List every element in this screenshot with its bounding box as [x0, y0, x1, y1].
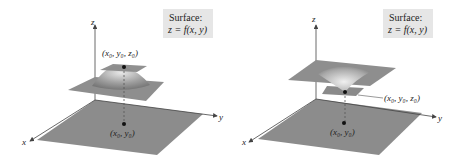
- min-point: [343, 90, 347, 94]
- z-label: z: [90, 17, 95, 27]
- max-point: [122, 65, 126, 69]
- point-3d-label: (x₀, y₀, z₀): [384, 93, 420, 103]
- right-diagram: Surface: z = f(x, y) z y x (x₀, y₀, z₀) …: [241, 9, 442, 155]
- x-label: x: [21, 137, 26, 147]
- y-label: y: [218, 112, 223, 122]
- base-point: [342, 121, 346, 125]
- point-3d-label: (x₀, y₀, z₀): [102, 48, 138, 58]
- y-label: y: [437, 113, 442, 123]
- box-title: Surface:: [389, 12, 422, 23]
- base-point: [122, 122, 126, 126]
- x-label: x: [241, 137, 246, 147]
- box-formula: z = f(x, y): [387, 24, 428, 36]
- leader-line: [358, 95, 383, 98]
- point-2d-label: (x₀, y₀): [110, 128, 135, 138]
- diagram: Surface: z = f(x, y) z y x (x₀, y₀, z₀) …: [0, 0, 463, 165]
- box-title: Surface:: [169, 12, 202, 23]
- box-formula: z = f(x, y): [167, 24, 208, 36]
- z-label: z: [311, 14, 316, 24]
- point-2d-label: (x₀, y₀): [330, 127, 355, 137]
- left-diagram: Surface: z = f(x, y) z y x (x₀, y₀, z₀) …: [21, 9, 223, 155]
